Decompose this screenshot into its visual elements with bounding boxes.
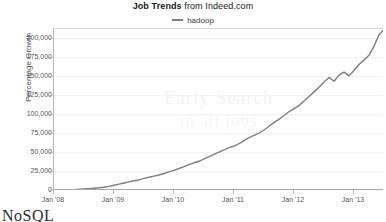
x-axis-tick-label: Jan '10 (149, 196, 197, 203)
x-axis-tick-label: Jan '09 (89, 196, 137, 203)
chart-title-strong: Job Trends (133, 1, 182, 11)
y-axis-tick-label: 50,000 (6, 148, 52, 155)
y-axis-tick-label: 150,000 (6, 72, 52, 79)
x-axis-tick-mark (113, 190, 114, 194)
chart-title: Job Trends from Indeed.com (0, 1, 386, 11)
clipped-page-heading: NoSQL (2, 208, 54, 222)
legend-line-swatch-hadoop (172, 19, 183, 21)
plot-svg (54, 29, 383, 190)
y-axis-tick-label: 0 (6, 186, 52, 193)
y-axis-tick-label: 200,000 (6, 34, 52, 41)
x-axis-tick-label: Jan '11 (209, 196, 257, 203)
y-axis-tick-label: 75,000 (6, 129, 52, 136)
x-axis-tick-mark (353, 190, 354, 194)
x-axis-tick-label: Jan '12 (269, 196, 317, 203)
y-axis-tick-label: 100,000 (6, 110, 52, 117)
x-axis-tick-label: Jan '13 (329, 196, 377, 203)
x-axis-tick-label: Jan '08 (29, 196, 77, 203)
chart-title-rest: from Indeed.com (182, 1, 254, 11)
chart-legend: hadoop (0, 16, 386, 25)
x-axis-tick-mark (53, 190, 54, 194)
series-layer (54, 29, 383, 190)
y-axis-tick-label: 125,000 (6, 91, 52, 98)
y-axis-tick-label: 175,000 (6, 53, 52, 60)
series-line-hadoop (54, 29, 383, 190)
plot-area: Early Search in all jobs (53, 28, 383, 190)
x-axis-tick-mark (173, 190, 174, 194)
y-axis-tick-label: 25,000 (6, 167, 52, 174)
legend-label-hadoop: hadoop (187, 16, 214, 25)
x-axis-tick-mark (293, 190, 294, 194)
x-axis-tick-mark (233, 190, 234, 194)
job-trends-chart-widget: Job Trends from Indeed.com hadoop Percen… (0, 0, 386, 222)
